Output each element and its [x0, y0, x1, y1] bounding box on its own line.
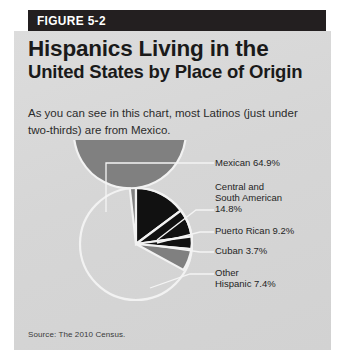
figure-banner: FIGURE 5-2	[28, 10, 326, 31]
figure-source: Source: The 2010 Census.	[28, 330, 125, 339]
pie-label-cuban: Cuban 3.7%	[215, 245, 267, 256]
pie-label-central-south-american-line-2: South American	[215, 192, 282, 203]
figure-title-line-1: Hispanics Living in the	[28, 36, 320, 61]
figure-banner-label: FIGURE 5-2	[37, 13, 106, 28]
pie-label-mexican: Mexican 64.9%	[215, 157, 280, 168]
figure-description: As you can see in this chart, most Latin…	[28, 105, 306, 138]
figure-title-line-2: United States by Place of Origin	[28, 61, 320, 83]
pie-label-central-south-american-line-1: Central and	[215, 181, 264, 192]
pie-label-other-hispanic-line-1: Other	[215, 267, 239, 278]
figure-title-block: Hispanics Living in the United States by…	[28, 36, 320, 83]
pie-label-other-hispanic-line-2: Hispanic 7.4%	[215, 278, 276, 289]
pie-chart: Mexican 64.9% Central and South American…	[14, 140, 331, 315]
pie-label-puerto-rican: Puerto Rican 9.2%	[215, 225, 294, 236]
figure-container: FIGURE 5-2 Hispanics Living in the Unite…	[0, 0, 347, 361]
pie-chart-labels: Mexican 64.9% Central and South American…	[14, 140, 331, 315]
pie-label-central-south-american-line-3: 14.8%	[215, 203, 242, 214]
